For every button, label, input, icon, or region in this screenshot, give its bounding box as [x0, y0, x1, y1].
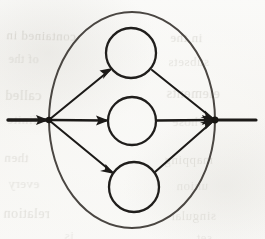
top-circle-node [106, 28, 156, 78]
middle-circle-node [108, 97, 156, 145]
graph-diagram [0, 0, 265, 239]
top-to-right-arrow [152, 70, 215, 120]
left-to-middle-arrow [50, 116, 109, 126]
left-junction-vertex [46, 117, 52, 123]
bottom-circle-node [109, 162, 159, 212]
entry-arrow [8, 115, 49, 125]
figure-page: contained inin theof thesubsetscalledele… [0, 0, 265, 239]
left-to-bottom-arrow [50, 121, 115, 174]
left-to-top-arrow [50, 68, 113, 119]
right-junction-vertex [212, 117, 219, 124]
bottom-to-right-arrow [155, 120, 215, 172]
